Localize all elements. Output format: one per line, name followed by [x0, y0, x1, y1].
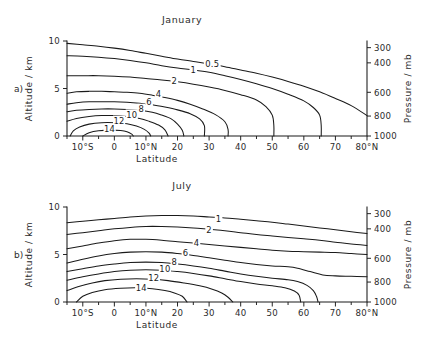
pressure-tick-label: 1000	[374, 131, 397, 141]
y-tick-label: 10	[48, 202, 60, 212]
x-tick-label: 70	[330, 142, 342, 152]
pressure-tick-label: 300	[374, 43, 391, 53]
contour-label: 10	[126, 110, 137, 120]
x-tick-label: 10°N	[135, 142, 158, 152]
x-tick-label: 30	[203, 142, 215, 152]
contour-line	[67, 239, 367, 254]
panel-title-a: January	[161, 14, 202, 25]
pressure-axis-label: Pressure / mb	[403, 220, 413, 289]
x-tick-label: 40	[235, 142, 247, 152]
water-vapour-contour-figure: a)January051010°S010°N20304050607080°N30…	[0, 0, 435, 340]
contour-line	[67, 262, 318, 302]
contour-label: 1	[191, 65, 197, 75]
x-tick-label: 60	[298, 308, 310, 318]
y-tick-label: 0	[54, 131, 60, 141]
panel-b: b)July051010°S010°N20304050607080°N30040…	[14, 180, 413, 330]
panel-tag-a: a)	[14, 84, 23, 94]
x-tick-label: 50	[266, 308, 278, 318]
x-tick-label: 0	[111, 308, 117, 318]
contour-label: 14	[136, 283, 147, 293]
pressure-tick-label: 400	[374, 58, 391, 68]
pressure-tick-label: 800	[374, 277, 391, 287]
contour-label: 14	[104, 124, 115, 134]
x-tick-label: 10°S	[72, 308, 94, 318]
pressure-tick-label: 800	[374, 111, 391, 121]
y-axis-label: Altitude / km	[24, 222, 34, 288]
x-tick-label: 30	[203, 308, 215, 318]
pressure-tick-label: 600	[374, 254, 391, 264]
pressure-tick-label: 600	[374, 88, 391, 98]
x-axis-label: Latitude	[136, 320, 178, 330]
contour-label: 6	[183, 248, 189, 258]
x-tick-label: 80°N	[356, 308, 379, 318]
x-tick-label: 10°N	[135, 308, 158, 318]
contour-line	[67, 43, 367, 115]
contour-label: 12	[148, 273, 159, 283]
contour-label: 4	[156, 89, 162, 99]
contour-label: 8	[172, 257, 178, 267]
x-tick-label: 50	[266, 142, 278, 152]
y-tick-label: 5	[54, 84, 60, 94]
x-tick-label: 20	[172, 308, 184, 318]
contour-label: 1	[216, 214, 222, 224]
contour-label: 6	[146, 97, 152, 107]
contour-label: 2	[206, 225, 212, 235]
contour-label: 2	[172, 76, 178, 86]
x-tick-label: 20	[172, 142, 184, 152]
contour-label: 4	[194, 238, 200, 248]
contour-label: 10	[159, 264, 170, 274]
panel-a: a)January051010°S010°N20304050607080°N30…	[14, 14, 413, 164]
x-axis-label: Latitude	[136, 154, 178, 164]
y-axis-label: Altitude / km	[24, 56, 34, 122]
x-tick-label: 10°S	[72, 142, 94, 152]
pressure-tick-label: 400	[374, 224, 391, 234]
panel-tag-b: b)	[14, 250, 23, 260]
x-tick-label: 60	[298, 142, 310, 152]
x-tick-label: 80°N	[356, 142, 379, 152]
contour-line	[67, 226, 367, 245]
x-tick-label: 0	[111, 142, 117, 152]
contour-line	[76, 288, 187, 302]
pressure-tick-label: 300	[374, 209, 391, 219]
y-tick-label: 0	[54, 297, 60, 307]
y-tick-label: 5	[54, 250, 60, 260]
contour-label: 8	[138, 104, 144, 114]
pressure-tick-label: 1000	[374, 297, 397, 307]
panel-title-b: July	[171, 180, 191, 191]
x-tick-label: 70	[330, 308, 342, 318]
contour-line	[67, 76, 274, 136]
contour-label: 0.5	[205, 59, 219, 69]
y-tick-label: 10	[48, 36, 60, 46]
pressure-axis-label: Pressure / mb	[403, 54, 413, 123]
x-tick-label: 40	[235, 308, 247, 318]
